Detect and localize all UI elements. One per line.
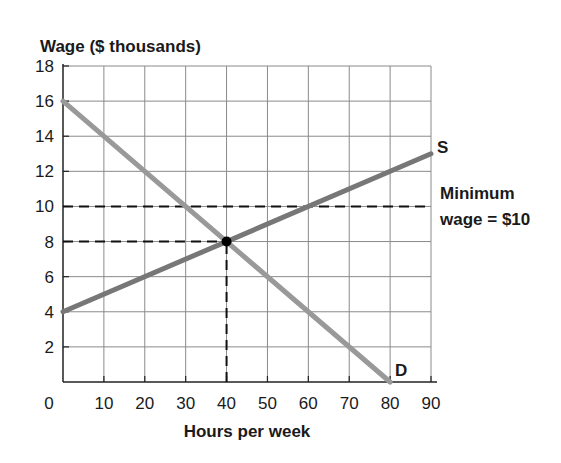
min-wage-label-line2: wage = $10 xyxy=(439,210,530,229)
y-tick-label: 10 xyxy=(35,197,54,216)
x-tick-label: 50 xyxy=(258,394,277,413)
equilibrium-point xyxy=(222,237,232,247)
y-axis-title: Wage ($ thousands) xyxy=(40,37,201,56)
y-tick-label: 12 xyxy=(35,162,54,181)
x-axis-title: Hours per week xyxy=(184,422,311,441)
x-tick-label: 0 xyxy=(44,394,53,413)
supply-label: S xyxy=(437,138,448,157)
y-tick-label: 14 xyxy=(35,127,54,146)
y-tick-label: 6 xyxy=(45,268,54,287)
y-tick-label: 4 xyxy=(45,303,54,322)
x-tick-label: 40 xyxy=(217,394,236,413)
x-tick-label: 60 xyxy=(299,394,318,413)
labor-market-chart: 246810121416180102030405060708090 Wage (… xyxy=(0,0,561,463)
y-tick-label: 2 xyxy=(45,338,54,357)
x-tick-label: 70 xyxy=(340,394,359,413)
axes xyxy=(63,64,437,382)
y-tick-label: 18 xyxy=(35,57,54,76)
y-tick-label: 8 xyxy=(45,233,54,252)
x-tick-label: 80 xyxy=(381,394,400,413)
x-tick-label: 20 xyxy=(135,394,154,413)
min-wage-label-line1: Minimum xyxy=(440,184,515,203)
grid xyxy=(63,66,431,382)
y-tick-label: 16 xyxy=(35,92,54,111)
x-tick-label: 90 xyxy=(422,394,441,413)
supply-curve xyxy=(63,154,431,312)
x-tick-label: 30 xyxy=(176,394,195,413)
demand-label: D xyxy=(395,361,407,380)
x-tick-label: 10 xyxy=(94,394,113,413)
